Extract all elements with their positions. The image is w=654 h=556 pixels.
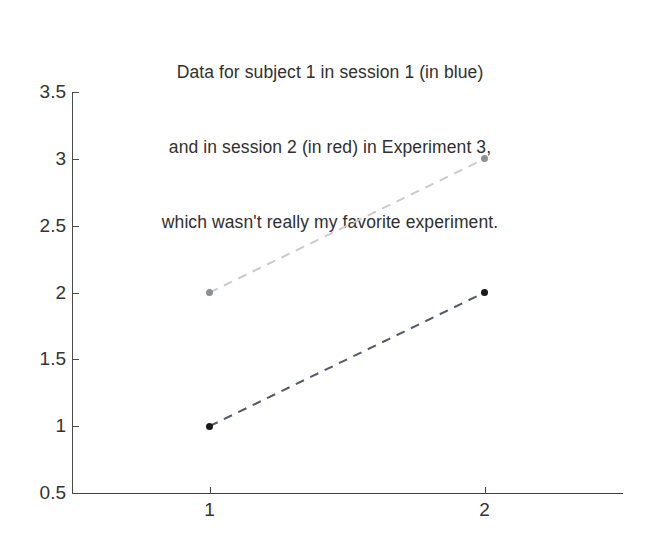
y-tick-mark [72, 359, 79, 360]
y-tick-label: 1 [6, 416, 66, 435]
y-tick-label: 2 [6, 283, 66, 302]
data-point-marker [481, 289, 488, 296]
chart-title: Data for subject 1 in session 1 (in blue… [60, 10, 600, 285]
x-tick-label: 2 [465, 500, 505, 519]
y-tick-mark [72, 426, 79, 427]
y-tick-mark [72, 493, 79, 494]
chart-title-line-1: Data for subject 1 in session 1 (in blue… [60, 60, 600, 85]
y-tick-mark [72, 159, 79, 160]
y-tick-mark [72, 92, 79, 93]
y-tick-label: 1.5 [6, 349, 66, 368]
chart-title-line-3: which wasn't really my favorite experime… [60, 210, 600, 235]
y-tick-mark [72, 293, 79, 294]
y-tick-label: 3 [6, 149, 66, 168]
x-tick-mark [210, 487, 211, 494]
y-tick-label: 2.5 [6, 216, 66, 235]
y-tick-label: 0.5 [6, 483, 66, 502]
x-axis-line [72, 493, 623, 494]
data-point-marker [206, 423, 213, 430]
y-tick-label: 3.5 [6, 82, 66, 101]
x-tick-mark [485, 487, 486, 494]
chart-title-line-2: and in session 2 (in red) in Experiment … [60, 135, 600, 160]
series-line-1 [210, 293, 485, 427]
y-tick-mark [72, 226, 79, 227]
figure-canvas: Data for subject 1 in session 1 (in blue… [0, 0, 654, 556]
data-point-marker [206, 289, 213, 296]
x-tick-label: 1 [190, 500, 230, 519]
